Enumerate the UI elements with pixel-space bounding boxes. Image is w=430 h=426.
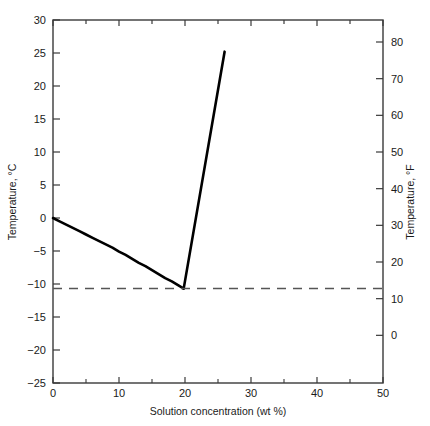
chart-figure: 01020304050 −25−20−15−10−5051015202530 0… [0,0,430,426]
svg-text:30: 30 [34,14,46,26]
y-axis-title: Temperature, °C [6,163,18,240]
svg-text:50: 50 [377,387,389,399]
svg-text:0: 0 [40,212,46,224]
svg-text:80: 80 [391,36,403,48]
figure-background [0,0,430,426]
svg-text:60: 60 [391,109,403,121]
svg-text:5: 5 [40,179,46,191]
y2-axis-title: Temperature, °F [404,164,416,239]
x-axis-title: Solution concentration (wt %) [150,405,287,417]
svg-text:20: 20 [34,80,46,92]
svg-text:30: 30 [391,219,403,231]
svg-text:10: 10 [391,293,403,305]
svg-text:10: 10 [113,387,125,399]
svg-text:20: 20 [391,256,403,268]
svg-text:20: 20 [179,387,191,399]
svg-text:25: 25 [34,47,46,59]
svg-text:50: 50 [391,146,403,158]
phase-diagram-svg: 01020304050 −25−20−15−10−5051015202530 0… [0,0,430,426]
svg-text:0: 0 [391,329,397,341]
svg-text:−15: −15 [27,311,46,323]
svg-text:−5: −5 [33,245,46,257]
svg-text:30: 30 [245,387,257,399]
svg-text:40: 40 [391,183,403,195]
y2-axis-tick-labels: 01020304050607080 [391,36,403,341]
svg-text:−25: −25 [27,377,46,389]
svg-text:15: 15 [34,113,46,125]
svg-text:−10: −10 [27,278,46,290]
svg-text:70: 70 [391,73,403,85]
svg-text:10: 10 [34,146,46,158]
svg-text:40: 40 [311,387,323,399]
svg-text:0: 0 [50,387,56,399]
svg-text:−20: −20 [27,344,46,356]
